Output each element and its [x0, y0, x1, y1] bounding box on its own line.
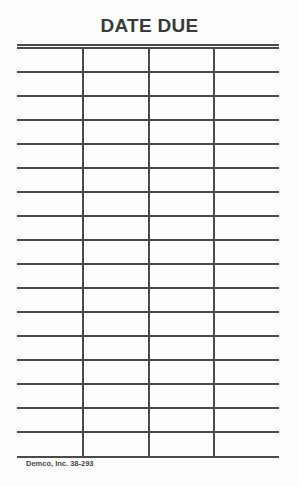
- top-double-rule-upper: [17, 44, 279, 46]
- column-divider: [213, 47, 215, 457]
- date-due-card: DATE DUE Demco, Inc. 38-293: [0, 0, 299, 486]
- column-divider: [148, 47, 150, 457]
- publisher-footer: Demco, Inc. 38-293: [26, 459, 94, 468]
- card-title: DATE DUE: [0, 15, 299, 37]
- column-divider: [82, 47, 84, 457]
